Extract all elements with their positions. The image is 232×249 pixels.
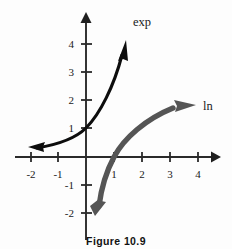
x-tick-label-1: 1 [111,168,117,180]
graph-plot: -2 -1 1 2 3 4 1 2 3 4 -1 -2 [0,0,232,249]
figure-container: -2 -1 1 2 3 4 1 2 3 4 -1 -2 [0,0,232,249]
exp-curve-label: exp [133,15,151,29]
x-tick-label-4: 4 [195,168,201,180]
x-tick-label--1: -1 [53,168,62,180]
y-tick-label-3: 3 [69,66,75,78]
y-tick-label--1: -1 [65,179,74,191]
y-tick-labels: 1 2 3 4 -1 -2 [65,38,75,219]
ln-curve-start-arrowhead [90,199,106,216]
ln-curve-end-arrowhead [174,100,196,112]
x-tick-label-2: 2 [139,168,145,180]
y-tick-label-2: 2 [69,94,75,106]
y-tick-label--2: -2 [65,207,74,219]
x-tick-labels: -2 -1 1 2 3 4 [26,168,201,180]
y-axis-arrowhead [81,12,92,23]
x-tick-label--2: -2 [26,168,35,180]
y-tick-label-4: 4 [69,38,75,50]
x-axis-arrowhead [211,152,221,163]
x-tick-label-3: 3 [167,168,173,180]
exp-curve-start-arrowhead [28,142,45,152]
y-tick-label-1: 1 [69,122,75,134]
exp-curve-end-arrowhead [118,40,128,61]
axes-group [15,12,221,240]
exp-curve [37,55,122,148]
exp-curve-group [28,40,128,152]
ln-curve-group [90,100,196,216]
ln-curve-label: ln [203,99,213,113]
figure-caption: Figure 10.9 [0,235,232,247]
